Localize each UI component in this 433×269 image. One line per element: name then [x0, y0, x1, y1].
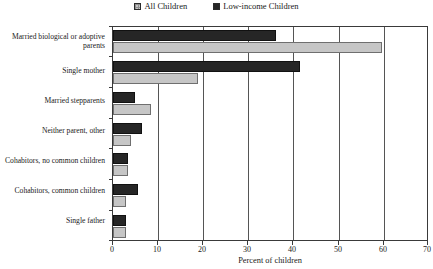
- y-label-cohabitors-no-common-children: Cohabitors, no common children: [0, 156, 105, 165]
- legend-swatch-all-children-icon: [134, 3, 141, 10]
- x-tick-label-50: 50: [334, 245, 342, 255]
- x-tick-label-0: 0: [110, 245, 114, 255]
- plot-area: [112, 26, 428, 241]
- legend-swatch-low-income-children-icon: [213, 3, 220, 10]
- y-label-single-mother: Single mother: [0, 66, 105, 75]
- bar-all-children-married-biological-or-adoptive-parents: [113, 42, 382, 53]
- bar-all-children-neither-parent-other: [113, 135, 131, 146]
- bar-all-children-single-father: [113, 227, 126, 238]
- bar-group-cohabitors-common-children: [113, 184, 427, 208]
- y-axis-labels: Married biological or adoptive parents S…: [0, 26, 109, 241]
- legend-label-low-income-children: Low-income Children: [223, 2, 298, 11]
- bar-low-income-married-biological-or-adoptive-parents: [113, 30, 276, 41]
- x-tick-label-40: 40: [288, 245, 296, 255]
- bar-group-cohabitors-no-common-children: [113, 153, 427, 177]
- bar-all-children-married-stepparents: [113, 104, 151, 115]
- chart-legend: All Children Low-income Children: [0, 2, 433, 11]
- bar-low-income-cohabitors-common-children: [113, 184, 138, 195]
- x-tick-label-60: 60: [379, 245, 387, 255]
- y-label-married-biological-or-adoptive-parents: Married biological or adoptive parents: [0, 32, 105, 51]
- legend-item-low-income-children: Low-income Children: [213, 2, 298, 11]
- x-tick-label-20: 20: [198, 245, 206, 255]
- bar-group-single-mother: [113, 61, 427, 85]
- bar-chart: All Children Low-income Children Married…: [0, 0, 433, 269]
- x-axis-title: Percent of children: [112, 256, 428, 265]
- bar-all-children-cohabitors-common-children: [113, 196, 126, 207]
- bar-group-married-biological-or-adoptive-parents: [113, 30, 427, 54]
- x-tick-label-30: 30: [243, 245, 251, 255]
- bar-group-married-stepparents: [113, 92, 427, 116]
- y-label-married-stepparents: Married stepparents: [0, 96, 105, 105]
- legend-item-all-children: All Children: [134, 2, 187, 11]
- y-label-single-father: Single father: [0, 216, 105, 225]
- bar-group-neither-parent-other: [113, 123, 427, 147]
- x-tick-label-70: 70: [423, 245, 431, 255]
- bar-all-children-single-mother: [113, 73, 198, 84]
- bar-low-income-cohabitors-no-common-children: [113, 153, 128, 164]
- legend-label-all-children: All Children: [144, 2, 187, 11]
- bar-low-income-neither-parent-other: [113, 123, 142, 134]
- bar-low-income-married-stepparents: [113, 92, 135, 103]
- bar-group-single-father: [113, 215, 427, 239]
- x-tick-label-10: 10: [153, 245, 161, 255]
- bar-low-income-single-mother: [113, 61, 300, 72]
- y-label-neither-parent-other: Neither parent, other: [0, 126, 105, 135]
- bar-low-income-single-father: [113, 215, 126, 226]
- y-label-cohabitors-common-children: Cohabitors, common children: [0, 186, 105, 195]
- bar-all-children-cohabitors-no-common-children: [113, 165, 128, 176]
